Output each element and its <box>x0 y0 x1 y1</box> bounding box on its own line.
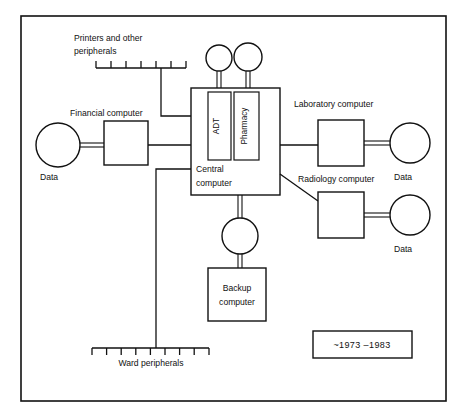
laboratory-computer-group <box>318 120 430 166</box>
pharmacy-label: Pharmacy <box>240 107 249 145</box>
era-label: ~1973 –1983 <box>333 340 390 350</box>
radiology-computer-label: Radiology computer <box>298 174 375 184</box>
radiology-computer-box <box>318 192 364 238</box>
backup-computer-label-line1: Backup <box>223 283 252 293</box>
financial-computer-group <box>36 121 191 167</box>
backup-computer-label-line2: computer <box>219 297 255 307</box>
backup-disc <box>222 218 258 254</box>
printers-label-line2: peripherals <box>74 46 117 56</box>
central-computer-group <box>191 43 318 218</box>
radiology-computer-group <box>318 192 430 238</box>
central-computer-label-line2: computer <box>196 178 232 188</box>
laboratory-data-label: Data <box>394 172 412 182</box>
financial-data-disc <box>36 123 80 167</box>
diagram-canvas: Printers and other peripherals Financial… <box>0 0 467 417</box>
radiology-data-label: Data <box>394 244 412 254</box>
financial-data-label: Data <box>40 172 58 182</box>
pharmacy-disc <box>234 43 262 71</box>
system-architecture-diagram: Printers and other peripherals Financial… <box>0 0 467 417</box>
laboratory-computer-label: Laboratory computer <box>294 99 373 109</box>
laboratory-computer-box <box>318 120 364 166</box>
ward-peripherals-label: Ward peripherals <box>118 358 183 368</box>
financial-computer-box <box>104 121 148 165</box>
backup-computer-box <box>208 268 266 321</box>
radiology-data-disc <box>390 195 430 235</box>
adt-label: ADT <box>212 118 221 134</box>
central-computer-label-line1: Central <box>196 164 224 174</box>
printers-label-line1: Printers and other <box>74 33 142 43</box>
ward-peripherals-bus <box>92 169 209 355</box>
laboratory-data-disc <box>390 123 430 163</box>
financial-computer-label: Financial computer <box>70 108 143 118</box>
adt-disc <box>206 45 232 71</box>
